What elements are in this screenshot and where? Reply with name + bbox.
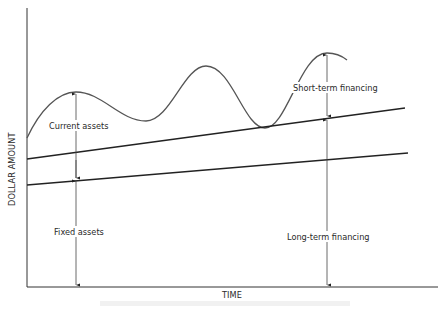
y-axis-label: DOLLAR AMOUNT xyxy=(7,132,17,206)
long-term-financing-label: Long-term financing xyxy=(287,232,370,242)
x-axis-label: TIME xyxy=(221,290,242,300)
short-term-financing-label: Short-term financing xyxy=(293,83,378,93)
faint-caption-smudge xyxy=(100,301,350,306)
fixed-assets-label: Fixed assets xyxy=(54,227,104,237)
current-assets-label: Current assets xyxy=(49,121,108,131)
long-term-financing-line xyxy=(27,108,405,159)
financing-diagram: DOLLAR AMOUNT TIME Current assets Fixed … xyxy=(0,0,444,312)
fixed-assets-line xyxy=(27,153,408,185)
